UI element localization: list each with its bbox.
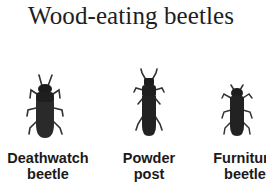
beetle-label-line1: Furniture xyxy=(204,150,266,166)
beetle-label-powder-post: Powder post xyxy=(108,150,190,182)
beetle-label-line2: post xyxy=(108,166,190,182)
powder-post-beetle-icon xyxy=(130,68,168,140)
beetle-label-deathwatch: Deathwatch beetle xyxy=(3,150,93,182)
beetle-label-furniture: Furniture beetle xyxy=(204,150,266,182)
deathwatch-beetle-icon xyxy=(22,72,68,142)
beetle-label-line1: Powder xyxy=(108,150,190,166)
beetle-label-line2: beetle xyxy=(204,166,266,182)
page-title: Wood-eating beetles xyxy=(24,2,266,30)
beetle-label-line1: Deathwatch xyxy=(3,150,93,166)
furniture-beetle-icon xyxy=(218,82,256,140)
beetle-label-line2: beetle xyxy=(3,166,93,182)
